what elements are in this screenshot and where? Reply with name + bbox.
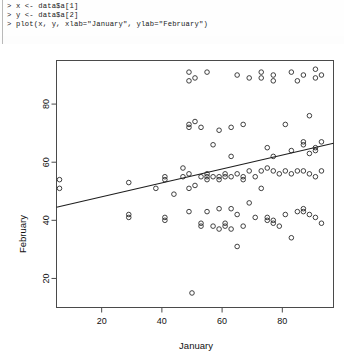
- data-point: [172, 192, 177, 197]
- data-point: [253, 174, 258, 179]
- data-point: [199, 125, 204, 130]
- data-point: [235, 244, 240, 249]
- data-point: [247, 76, 252, 81]
- data-point: [301, 209, 306, 214]
- x-tick-label: 60: [217, 316, 227, 326]
- data-point: [229, 227, 234, 232]
- y-tick-label: 20: [41, 273, 51, 283]
- data-point: [217, 128, 222, 133]
- data-point: [211, 142, 216, 147]
- x-axis-title: January: [179, 340, 213, 351]
- data-point: [187, 70, 192, 75]
- data-point: [295, 209, 300, 214]
- data-point: [313, 67, 318, 72]
- console-left-rule: [2, 0, 3, 48]
- data-point: [289, 70, 294, 75]
- data-point: [187, 186, 192, 191]
- data-point: [301, 169, 306, 174]
- data-point: [223, 224, 228, 229]
- data-point: [301, 73, 306, 78]
- y-tick-label: 40: [41, 215, 51, 225]
- data-point: [295, 169, 300, 174]
- data-point: [289, 172, 294, 177]
- data-point: [229, 154, 234, 159]
- plot-canvas: February January 20406080 20406080: [0, 44, 344, 362]
- data-point: [217, 206, 222, 211]
- data-point: [205, 209, 210, 214]
- data-point: [307, 172, 312, 177]
- data-point: [187, 79, 192, 84]
- data-point: [307, 113, 312, 118]
- data-point: [217, 227, 222, 232]
- data-point: [154, 186, 159, 191]
- data-point: [283, 212, 288, 217]
- x-tick-label: 40: [157, 316, 167, 326]
- console-line-3: > plot(x, y, xlab="January", ylab="Febru…: [0, 20, 344, 29]
- x-tick-label: 80: [277, 316, 287, 326]
- data-point: [277, 172, 282, 177]
- data-point: [229, 125, 234, 130]
- regression-line: [57, 143, 334, 207]
- data-point: [190, 291, 195, 296]
- data-point: [126, 215, 131, 220]
- y-axis-title: February: [17, 215, 28, 253]
- data-point: [223, 174, 228, 179]
- data-point: [319, 169, 324, 174]
- data-point: [265, 166, 270, 171]
- data-point: [193, 76, 198, 81]
- data-point: [235, 212, 240, 217]
- data-point: [205, 177, 210, 182]
- y-axis-ticks: 20406080: [41, 99, 57, 283]
- data-point: [247, 169, 252, 174]
- data-point: [229, 174, 234, 179]
- data-point: [247, 201, 252, 206]
- data-point: [259, 70, 264, 75]
- plot-frame: [57, 61, 334, 308]
- data-point: [187, 172, 192, 177]
- data-point: [199, 224, 204, 229]
- data-point: [187, 125, 192, 130]
- data-point: [235, 172, 240, 177]
- x-axis-ticks: 20406080: [97, 308, 288, 326]
- data-point: [259, 76, 264, 81]
- data-point: [271, 221, 276, 226]
- data-point: [163, 177, 168, 182]
- data-point: [211, 224, 216, 229]
- data-point: [241, 177, 246, 182]
- data-point: [307, 212, 312, 217]
- data-point: [271, 73, 276, 78]
- data-point: [289, 235, 294, 240]
- data-point: [265, 218, 270, 223]
- r-console-pane[interactable]: > x <- data$a[1] > y <- data$a[2] > plot…: [0, 0, 344, 36]
- data-point: [211, 174, 216, 179]
- console-line-1: > x <- data$a[1]: [0, 2, 344, 11]
- data-point: [241, 122, 246, 127]
- data-point: [313, 76, 318, 81]
- data-point: [313, 148, 318, 153]
- data-point: [187, 209, 192, 214]
- data-point: [313, 174, 318, 179]
- data-point: [319, 140, 324, 145]
- data-point: [271, 169, 276, 174]
- x-tick-label: 20: [97, 316, 107, 326]
- data-point: [259, 186, 264, 191]
- data-point: [205, 70, 210, 75]
- console-line-2: > y <- data$a[2]: [0, 11, 344, 20]
- data-point: [313, 215, 318, 220]
- data-point: [253, 215, 258, 220]
- data-point: [57, 177, 62, 182]
- data-point: [193, 183, 198, 188]
- data-point: [319, 221, 324, 226]
- data-point: [163, 218, 168, 223]
- data-point: [259, 169, 264, 174]
- data-point: [217, 177, 222, 182]
- scatter-plot-figure: February January 20406080 20406080: [0, 44, 344, 362]
- data-point: [307, 151, 312, 156]
- data-point: [181, 166, 186, 171]
- data-point: [126, 180, 131, 185]
- data-point: [301, 142, 306, 147]
- data-point: [277, 224, 282, 229]
- scatter-points: [57, 67, 324, 295]
- data-point: [319, 73, 324, 78]
- data-point: [241, 224, 246, 229]
